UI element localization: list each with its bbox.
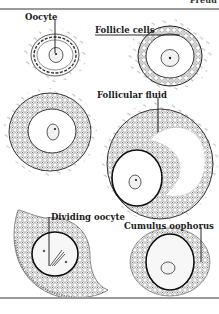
secondary-follicle: [3, 88, 97, 176]
label-dividing-oocyte: Dividing oocyte: [51, 212, 125, 222]
antral-follicle: [102, 98, 218, 222]
label-follicle-cells: Follicle cells: [95, 25, 155, 35]
dividing-oocyte-follicle: [14, 210, 108, 298]
primordial-follicle: [23, 19, 87, 82]
label-oocyte: Oocyte: [25, 12, 58, 22]
follicle-diagram: [0, 0, 219, 314]
label-cumulus-oophorus: Cumulus oophorus: [124, 221, 214, 231]
bottom-rule: [0, 297, 219, 299]
ovulated-oocyte: [130, 227, 210, 296]
label-follicular-fluid: Follicular fluid: [97, 90, 167, 100]
